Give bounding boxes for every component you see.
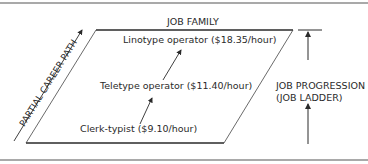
job-progression-label: JOB PROGRESSION [276, 80, 340, 91]
job-family-title: JOB FAMILY [167, 16, 219, 27]
promotion-arrow-upper-icon [163, 50, 181, 80]
job-linotype-operator: Linotype operator ($18.35/hour) [123, 34, 277, 45]
job-ladder-label: (JOB LADDER) [276, 92, 340, 103]
job-clerk-typist: Clerk-typist ($9.10/hour) [80, 123, 197, 134]
job-teletype-operator: Teletype operator ($11.40/hour) [100, 80, 252, 91]
promotion-arrow-lower-icon [140, 98, 152, 124]
